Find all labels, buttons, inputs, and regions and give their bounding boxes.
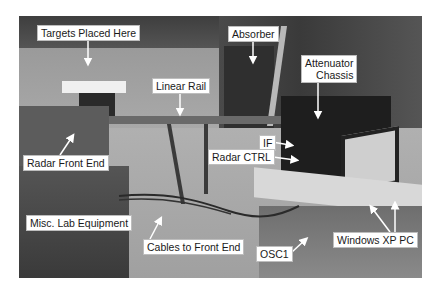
- label-linear-rail: Linear Rail: [152, 78, 210, 94]
- label-attenuator-chassis: Attenuator Chassis: [301, 55, 357, 83]
- label-osc1: OSC1: [256, 246, 293, 262]
- label-radar-front-end: Radar Front End: [23, 155, 109, 171]
- label-targets-placed-here: Targets Placed Here: [37, 25, 140, 41]
- label-absorber: Absorber: [228, 26, 279, 42]
- label-attenuator-line1: Attenuator: [305, 57, 353, 69]
- label-cables-to-front-end: Cables to Front End: [143, 239, 244, 255]
- label-windows-xp-pc: Windows XP PC: [333, 232, 418, 248]
- label-radar-ctrl: Radar CTRL: [208, 149, 275, 165]
- label-misc-lab-equipment: Misc. Lab Equipment: [26, 215, 132, 231]
- label-attenuator-line2: Chassis: [305, 69, 353, 81]
